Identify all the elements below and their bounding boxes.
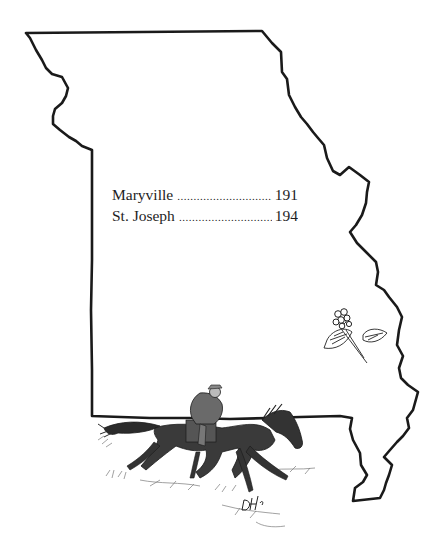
rider-hat	[208, 385, 222, 389]
index-entry-st-joseph[interactable]: St. Joseph 194	[112, 206, 298, 227]
horse-tail	[104, 422, 160, 434]
dot-leader	[179, 207, 272, 227]
horse-front-leg	[246, 446, 288, 480]
missouri-map	[0, 0, 446, 553]
pony-express-rider-illustration	[98, 385, 315, 527]
index-entry-page: 194	[272, 206, 298, 226]
index-entry-name: Maryville	[112, 185, 177, 205]
flower-blossoms	[333, 309, 352, 329]
index-entry-name: St. Joseph	[112, 206, 179, 226]
index-entry-maryville[interactable]: Maryville 191	[112, 185, 298, 206]
city-page-index: Maryville 191 St. Joseph 194	[112, 185, 298, 227]
flower-leaf-right	[363, 329, 387, 342]
dot-leader	[177, 186, 272, 206]
artist-signature	[242, 496, 263, 510]
index-entry-page: 191	[272, 185, 298, 205]
rider-body	[190, 393, 222, 424]
hawthorn-flower-icon	[324, 309, 387, 363]
